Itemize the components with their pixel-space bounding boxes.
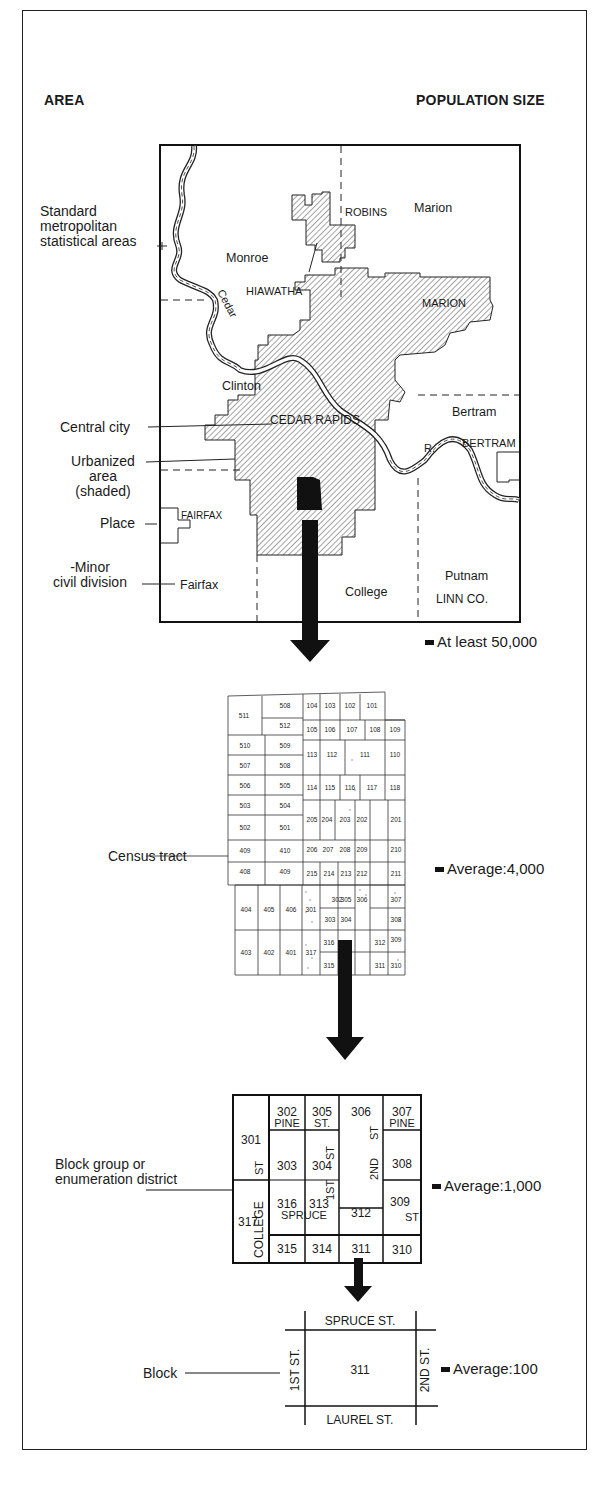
svg-text:504: 504 — [280, 802, 291, 809]
svg-text:308: 308 — [392, 1157, 412, 1171]
svg-text:305: 305 — [341, 896, 352, 903]
svg-text:406: 406 — [286, 906, 297, 913]
urbanized-area-label: Urbanized area (shaded) — [62, 454, 144, 499]
population-level-2: Average:4,000 — [435, 860, 544, 877]
svg-text:111: 111 — [360, 751, 370, 758]
minor-civil-division-label: -Minor civil division — [36, 560, 144, 590]
svg-text:Marion: Marion — [414, 201, 452, 215]
svg-text:113: 113 — [307, 751, 318, 758]
svg-text:512: 512 — [280, 722, 291, 729]
svg-text:Bertram: Bertram — [452, 405, 496, 419]
svg-text:508: 508 — [280, 762, 291, 769]
svg-text:402: 402 — [264, 949, 275, 956]
svg-text:R.: R. — [424, 442, 435, 454]
svg-text:405: 405 — [264, 906, 275, 913]
population-column-header: POPULATION SIZE — [416, 92, 545, 108]
svg-text:315: 315 — [324, 962, 335, 969]
svg-text:2ND: 2ND — [368, 1158, 380, 1180]
svg-text:118: 118 — [390, 784, 401, 791]
svg-text:103: 103 — [325, 702, 336, 709]
svg-text:303: 303 — [325, 916, 336, 923]
svg-text:304: 304 — [341, 916, 352, 923]
svg-text:ST: ST — [324, 1146, 336, 1160]
svg-text:501: 501 — [280, 824, 291, 831]
svg-text:213: 213 — [341, 870, 352, 877]
svg-text:401: 401 — [286, 949, 297, 956]
svg-text:ST: ST — [405, 1211, 419, 1223]
svg-text:212: 212 — [357, 870, 368, 877]
svg-text:403: 403 — [241, 949, 252, 956]
svg-text:210: 210 — [391, 846, 402, 853]
svg-text:PINE: PINE — [389, 1117, 415, 1129]
block-group-label: Block group or enumeration district — [55, 1157, 177, 1187]
svg-text:Putnam: Putnam — [445, 569, 488, 583]
census-tract-map: 511508512 510509 507508 506505 503504 50… — [0, 665, 608, 1045]
svg-text:LINN CO.: LINN CO. — [436, 592, 488, 606]
svg-text:104: 104 — [307, 702, 318, 709]
svg-text:ST.: ST. — [314, 1117, 330, 1129]
population-level-1: At least 50,000 — [425, 633, 537, 650]
svg-text:ST: ST — [368, 1126, 380, 1140]
svg-text:306: 306 — [357, 896, 368, 903]
svg-text:1ST ST.: 1ST ST. — [288, 1349, 302, 1391]
area-column-header: AREA — [44, 92, 84, 108]
svg-text:315: 315 — [277, 1242, 297, 1256]
svg-text:410: 410 — [280, 847, 291, 854]
central-city-label: Central city — [60, 420, 130, 435]
svg-text:2ND ST.: 2ND ST. — [418, 1348, 432, 1393]
svg-text:507: 507 — [240, 762, 251, 769]
svg-text:409: 409 — [240, 847, 251, 854]
svg-text:112: 112 — [327, 751, 338, 758]
svg-text:404: 404 — [241, 906, 252, 913]
svg-text:209: 209 — [357, 846, 368, 853]
svg-text:115: 115 — [325, 784, 336, 791]
svg-text:109: 109 — [390, 726, 401, 733]
svg-text:LAUREL ST.: LAUREL ST. — [327, 1413, 394, 1427]
block-group-map: 301 302 PINE 305 ST. 306 307 PINE 303 30… — [0, 1090, 608, 1300]
svg-text:ROBINS: ROBINS — [345, 206, 387, 218]
svg-text:106: 106 — [325, 726, 336, 733]
svg-text:206: 206 — [307, 846, 318, 853]
svg-text:307: 307 — [391, 896, 402, 903]
svg-text:201: 201 — [391, 816, 402, 823]
svg-text:208: 208 — [340, 846, 351, 853]
svg-text:204: 204 — [322, 816, 333, 823]
svg-text:511: 511 — [239, 712, 250, 719]
population-level-3: Average:1,000 — [432, 1177, 541, 1194]
svg-text:Fairfax: Fairfax — [180, 578, 219, 592]
svg-text:314: 314 — [312, 1242, 332, 1256]
svg-text:510: 510 — [240, 742, 251, 749]
svg-text:214: 214 — [324, 870, 335, 877]
svg-text:207: 207 — [323, 846, 334, 853]
svg-text:316: 316 — [324, 939, 335, 946]
svg-text:503: 503 — [240, 802, 251, 809]
dash-marker-icon — [441, 1367, 450, 1372]
block-label: Block — [143, 1366, 177, 1381]
svg-text:311: 311 — [351, 1242, 370, 1256]
svg-text:108: 108 — [370, 726, 381, 733]
svg-text:205: 205 — [307, 816, 318, 823]
svg-text:SPRUCE ST.: SPRUCE ST. — [325, 1314, 396, 1328]
svg-text:409: 409 — [280, 868, 291, 875]
svg-text:ST: ST — [253, 1161, 265, 1175]
svg-text:105: 105 — [307, 726, 318, 733]
svg-text:311: 311 — [375, 962, 386, 969]
svg-text:509: 509 — [280, 742, 291, 749]
svg-text:Clinton: Clinton — [222, 379, 261, 393]
svg-text:215: 215 — [307, 870, 318, 877]
svg-text:1ST: 1ST — [324, 1180, 336, 1200]
svg-text:301: 301 — [306, 906, 317, 913]
svg-text:311: 311 — [350, 1363, 369, 1377]
svg-text:317: 317 — [306, 949, 317, 956]
svg-text:202: 202 — [357, 816, 368, 823]
svg-text:211: 211 — [391, 870, 402, 877]
svg-text:505: 505 — [280, 782, 291, 789]
svg-text:408: 408 — [240, 868, 251, 875]
dash-marker-icon — [435, 867, 444, 872]
svg-text:301: 301 — [241, 1133, 261, 1147]
svg-text:502: 502 — [240, 824, 251, 831]
svg-text:BERTRAM: BERTRAM — [462, 437, 516, 449]
svg-text:PINE: PINE — [274, 1117, 300, 1129]
svg-text:SPRUCE: SPRUCE — [281, 1209, 327, 1221]
svg-text:310: 310 — [392, 1243, 412, 1257]
